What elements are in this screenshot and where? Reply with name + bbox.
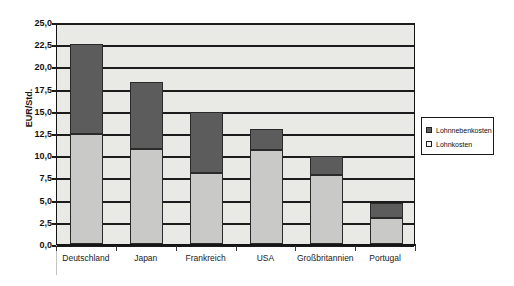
bar-group[interactable]: [310, 22, 343, 244]
y-axis-tick: [52, 23, 57, 25]
bar-group[interactable]: [70, 22, 103, 244]
y-axis-tick-label: 17,5: [18, 86, 52, 95]
gridline: [57, 134, 414, 136]
x-axis-label-japan: Japan: [134, 253, 157, 263]
y-axis-tick-label: 0,0: [18, 241, 52, 250]
bar-chart: EUR/Std. 0,02,55,07,510,012,515,017,520,…: [0, 0, 514, 286]
gridline: [57, 112, 414, 114]
bar-segment-lohnnebenkosten[interactable]: [70, 44, 103, 134]
bar-segment-lohnkosten[interactable]: [70, 134, 103, 244]
y-axis-tick-label: 7,5: [18, 174, 52, 183]
legend-item[interactable]: Lohnnebenkosten: [426, 123, 489, 137]
x-axis-label-usa: USA: [257, 253, 274, 263]
legend-item[interactable]: Lohnkosten: [426, 137, 489, 151]
y-axis-tick-label: 15,0: [18, 108, 52, 117]
y-axis-tick-label: 2,5: [18, 219, 52, 228]
bar-group[interactable]: [130, 22, 163, 244]
x-axis-label-frankreich: Frankreich: [186, 253, 226, 263]
x-axis-tick: [236, 246, 237, 251]
y-axis-tick: [52, 178, 57, 180]
y-axis-tick-label: 20,0: [18, 63, 52, 72]
bar-segment-lohnnebenkosten[interactable]: [250, 129, 283, 149]
y-axis-tick-label: 25,0: [18, 19, 52, 28]
legend-item-label: Lohnnebenkosten: [436, 127, 492, 134]
bar-segment-lohnnebenkosten[interactable]: [310, 156, 343, 175]
y-axis-tick-label: 5,0: [18, 197, 52, 206]
bar-segment-lohnkosten[interactable]: [130, 149, 163, 244]
x-axis-tick: [56, 246, 57, 251]
chart-legend: LohnnebenkostenLohnkosten: [421, 117, 494, 155]
legend-swatch-icon: [426, 141, 432, 147]
gridline: [57, 67, 414, 69]
x-axis-label-deutschland: Deutschland: [62, 253, 109, 263]
bar-group[interactable]: [250, 22, 283, 244]
bar-segment-lohnkosten[interactable]: [250, 150, 283, 244]
y-axis-tick-label: 22,5: [18, 41, 52, 50]
legend-swatch-icon: [426, 127, 432, 133]
gridline: [57, 23, 414, 25]
gridline: [57, 45, 414, 47]
y-axis-tick: [52, 134, 57, 136]
plot-area: [56, 23, 415, 245]
x-axis-label-portugal: Portugal: [369, 253, 401, 263]
bar-segment-lohnkosten[interactable]: [190, 173, 223, 244]
bar-segment-lohnnebenkosten[interactable]: [370, 203, 403, 218]
x-axis-tick: [176, 246, 177, 251]
bar-segment-lohnnebenkosten[interactable]: [130, 82, 163, 149]
gridline: [57, 178, 414, 180]
bar-segment-lohnkosten[interactable]: [370, 218, 403, 244]
gridline: [57, 223, 414, 225]
y-axis-tick-label: 10,0: [18, 152, 52, 161]
bar-segment-lohnkosten[interactable]: [310, 175, 343, 244]
bar-segment-lohnnebenkosten[interactable]: [190, 112, 223, 173]
bar-group[interactable]: [370, 22, 403, 244]
x-axis-tick: [355, 246, 356, 251]
x-axis-tick: [415, 246, 416, 251]
y-axis-tick: [52, 201, 57, 203]
gridline: [57, 156, 414, 158]
y-axis-tick: [52, 45, 57, 47]
y-axis-tick: [52, 223, 57, 225]
y-axis-tick-labels: 0,02,55,07,510,012,515,017,520,022,525,0: [18, 23, 52, 245]
y-axis-tick: [52, 112, 57, 114]
gridline: [57, 90, 414, 92]
y-axis-tick: [52, 67, 57, 69]
y-axis-tick-label: 12,5: [18, 130, 52, 139]
x-axis-label-gro-britannien: Großbritannien: [297, 253, 354, 263]
x-axis-tick: [116, 246, 117, 251]
gridline: [57, 201, 414, 203]
y-axis-tick: [52, 90, 57, 92]
bar-group[interactable]: [190, 22, 223, 244]
y-axis-tick: [52, 156, 57, 158]
legend-item-label: Lohnkosten: [436, 141, 472, 148]
x-axis-tick: [295, 246, 296, 251]
